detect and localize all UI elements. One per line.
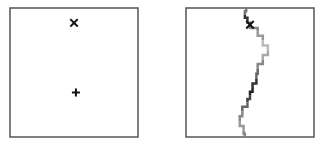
- right-panel: [186, 8, 314, 137]
- path-segment: [244, 131, 245, 137]
- left-panel-frame: [10, 8, 138, 137]
- figure-canvas: [0, 0, 324, 147]
- path-segment: [245, 8, 246, 14]
- left-panel: [10, 8, 138, 137]
- path-segment: [256, 69, 257, 79]
